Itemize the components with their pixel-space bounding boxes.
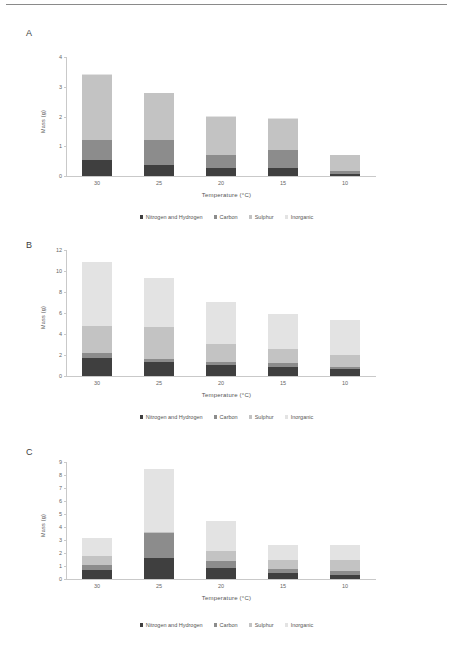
- legend-swatch-icon: [214, 623, 218, 627]
- bar-segment-sulphur[interactable]: [144, 93, 174, 140]
- bar-segment-carbon[interactable]: [206, 155, 236, 168]
- bar-segment-nitrogen-and-hydrogen[interactable]: [144, 362, 174, 376]
- legend-swatch-icon: [140, 215, 144, 219]
- stacked-bar[interactable]: [206, 521, 236, 580]
- bar-segment-carbon[interactable]: [144, 140, 174, 164]
- legend-label: Nitrogen and Hydrogen: [146, 414, 203, 420]
- chart-panel-b: B0246810123025201510Mass (g)Temperature …: [0, 232, 453, 427]
- bar-segment-carbon[interactable]: [82, 140, 112, 160]
- bar-segment-nitrogen-and-hydrogen[interactable]: [268, 168, 298, 176]
- bar-segment-nitrogen-and-hydrogen[interactable]: [82, 358, 112, 376]
- bar-segment-inorganic[interactable]: [144, 278, 174, 326]
- bar-segment-nitrogen-and-hydrogen[interactable]: [144, 165, 174, 176]
- legend-item[interactable]: Carbon: [214, 414, 238, 420]
- x-tick-label: 25: [139, 180, 179, 186]
- stacked-bar[interactable]: [82, 262, 112, 376]
- y-tick-label: 0: [59, 373, 62, 379]
- bar-segment-inorganic[interactable]: [206, 302, 236, 344]
- stacked-bar[interactable]: [144, 278, 174, 376]
- x-tick-label: 25: [139, 380, 179, 386]
- stacked-bar[interactable]: [144, 93, 174, 176]
- legend-item[interactable]: Nitrogen and Hydrogen: [140, 622, 203, 628]
- y-tick-label: 4: [59, 54, 62, 60]
- stacked-bar[interactable]: [206, 302, 236, 376]
- stacked-bar[interactable]: [268, 545, 298, 579]
- y-tick-label: 12: [56, 247, 62, 253]
- bar-segment-carbon[interactable]: [144, 533, 174, 558]
- stacked-bar[interactable]: [82, 74, 112, 176]
- bar-segment-sulphur[interactable]: [82, 556, 112, 565]
- bar-segment-carbon[interactable]: [268, 150, 298, 168]
- bar-segment-sulphur[interactable]: [330, 355, 360, 367]
- legend-swatch-icon: [285, 415, 289, 419]
- x-axis-title: Temperature (°C): [0, 595, 453, 601]
- legend-item[interactable]: Inorganic: [285, 622, 314, 628]
- legend-item[interactable]: Carbon: [214, 214, 238, 220]
- bar-segment-nitrogen-and-hydrogen[interactable]: [82, 160, 112, 176]
- legend-item[interactable]: Inorganic: [285, 214, 314, 220]
- bar-segment-nitrogen-and-hydrogen[interactable]: [206, 365, 236, 376]
- legend-swatch-icon: [285, 623, 289, 627]
- x-tick-label: 15: [263, 180, 303, 186]
- stacked-bar[interactable]: [268, 118, 298, 176]
- legend-item[interactable]: Inorganic: [285, 414, 314, 420]
- plot-area-c: 01234567893025201510: [66, 462, 376, 579]
- bar-segment-nitrogen-and-hydrogen[interactable]: [268, 573, 298, 579]
- bar-segment-sulphur[interactable]: [268, 560, 298, 568]
- bar-segment-nitrogen-and-hydrogen[interactable]: [330, 575, 360, 579]
- bar-segment-inorganic[interactable]: [330, 545, 360, 559]
- bar-segment-sulphur[interactable]: [206, 117, 236, 156]
- bar-segment-sulphur[interactable]: [330, 560, 360, 571]
- x-tick-label: 20: [201, 180, 241, 186]
- bar-segment-inorganic[interactable]: [82, 262, 112, 327]
- legend-item[interactable]: Nitrogen and Hydrogen: [140, 414, 203, 420]
- bar-segment-inorganic[interactable]: [144, 469, 174, 533]
- bar-segment-sulphur[interactable]: [82, 326, 112, 353]
- bar-segment-nitrogen-and-hydrogen[interactable]: [330, 174, 360, 176]
- bar-segment-sulphur[interactable]: [144, 327, 174, 360]
- legend-item[interactable]: Sulphur: [249, 414, 274, 420]
- stacked-bar[interactable]: [268, 314, 298, 376]
- bar-segment-inorganic[interactable]: [268, 314, 298, 350]
- bar-segment-sulphur[interactable]: [330, 155, 360, 171]
- bar-segment-carbon[interactable]: [206, 561, 236, 568]
- bar-segment-inorganic[interactable]: [330, 320, 360, 355]
- legend-item[interactable]: Carbon: [214, 622, 238, 628]
- y-tick-label: 8: [59, 472, 62, 478]
- stacked-bar[interactable]: [330, 320, 360, 376]
- y-tick-label: 9: [59, 459, 62, 465]
- legend-label: Carbon: [220, 622, 238, 628]
- legend-item[interactable]: Nitrogen and Hydrogen: [140, 214, 203, 220]
- legend-label: Inorganic: [291, 622, 314, 628]
- legend-item[interactable]: Sulphur: [249, 214, 274, 220]
- bar-segment-sulphur[interactable]: [206, 551, 236, 561]
- bar-segment-sulphur[interactable]: [82, 75, 112, 140]
- bar-segment-inorganic[interactable]: [82, 538, 112, 556]
- legend-swatch-icon: [140, 415, 144, 419]
- stacked-bar[interactable]: [330, 545, 360, 579]
- legend-swatch-icon: [140, 623, 144, 627]
- legend-label: Inorganic: [291, 214, 314, 220]
- stacked-bar[interactable]: [206, 116, 236, 176]
- bar-segment-nitrogen-and-hydrogen[interactable]: [206, 568, 236, 579]
- legend-swatch-icon: [249, 623, 253, 627]
- bar-segment-inorganic[interactable]: [268, 545, 298, 560]
- bar-segment-nitrogen-and-hydrogen[interactable]: [330, 369, 360, 376]
- legend-swatch-icon: [249, 215, 253, 219]
- stacked-bar[interactable]: [82, 538, 112, 579]
- bar-segment-nitrogen-and-hydrogen[interactable]: [82, 570, 112, 579]
- bar-segment-inorganic[interactable]: [206, 521, 236, 552]
- bar-segment-nitrogen-and-hydrogen[interactable]: [206, 168, 236, 176]
- bar-segment-sulphur[interactable]: [268, 119, 298, 151]
- stacked-bar[interactable]: [144, 469, 174, 580]
- legend-item[interactable]: Sulphur: [249, 622, 274, 628]
- y-axis-title: Mass (g): [40, 306, 46, 329]
- y-axis-title: Mass (g): [40, 514, 46, 537]
- bar-segment-sulphur[interactable]: [206, 344, 236, 362]
- legend-label: Nitrogen and Hydrogen: [146, 622, 203, 628]
- y-tick-mark: [64, 527, 66, 528]
- stacked-bar[interactable]: [330, 155, 360, 176]
- bar-segment-nitrogen-and-hydrogen[interactable]: [268, 367, 298, 376]
- bar-segment-sulphur[interactable]: [268, 349, 298, 363]
- bar-segment-nitrogen-and-hydrogen[interactable]: [144, 558, 174, 579]
